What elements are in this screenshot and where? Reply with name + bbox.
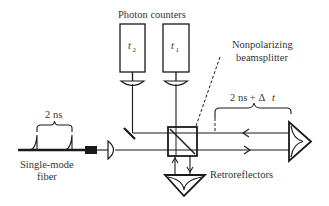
delay-label-var: t [272, 92, 276, 103]
beamsplitter-leader-line [196, 57, 220, 126]
photon-counters-label: Photon counters [118, 9, 186, 20]
retro-right-outline [289, 122, 311, 161]
detector-t1-sub: 1 [176, 46, 180, 54]
detector-t2-sub: 2 [133, 46, 137, 54]
pulse-separation-label: 2 ns [45, 109, 62, 120]
photon-counter-t2: t 2 [120, 24, 145, 133]
fiber-connector [85, 146, 97, 154]
beamsplitter-label-line2: beamsplitter [236, 52, 288, 63]
pulse-separation-brace [37, 121, 72, 132]
optical-setup-diagram: Photon counters t 2 t 1 Nonpolarizing be… [0, 0, 329, 206]
pulse-1 [30, 135, 37, 150]
photon-counter-t1: t 1 [163, 24, 189, 127]
delay-label-prefix: 2 ns + Δ [230, 92, 265, 103]
delay-brace [215, 103, 291, 118]
fiber-label-line2: fiber [37, 171, 57, 182]
fiber-label-line1: Single-mode [20, 159, 74, 170]
nonpolarizing-beamsplitter [168, 127, 197, 156]
beamsplitter-label-line1: Nonpolarizing [232, 39, 293, 50]
retroreflectors-label: Retroreflectors [210, 169, 273, 180]
pulse-2 [65, 135, 72, 150]
retroreflector-right [289, 122, 311, 161]
retroreflector-bottom [165, 175, 205, 196]
collimating-lens [108, 141, 114, 159]
